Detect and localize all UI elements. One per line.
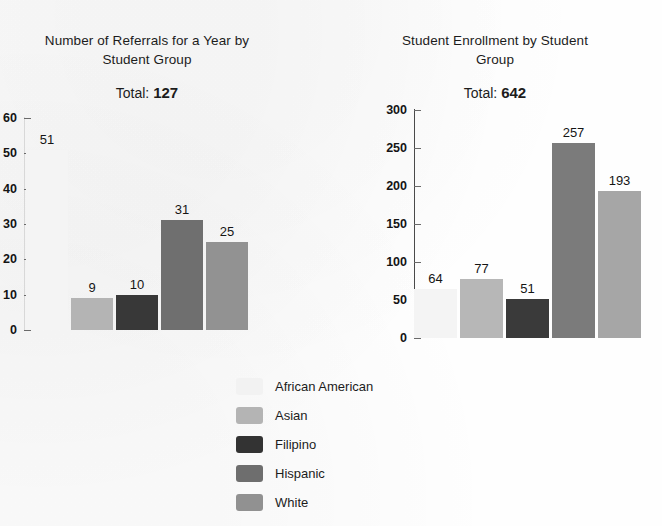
y-tick-label: 40 — [3, 182, 17, 196]
total-value: 642 — [501, 84, 526, 101]
bar-asian: 77 — [460, 279, 503, 338]
bar-fill — [161, 220, 203, 330]
y-tick-label: 60 — [3, 111, 17, 125]
y-tick-label: 30 — [3, 217, 17, 231]
legend-item: African American — [236, 372, 436, 401]
legend-item: Filipino — [236, 430, 436, 459]
bar-fill — [116, 295, 158, 330]
bar-fill — [598, 191, 641, 338]
bar-hispanic: 257 — [552, 143, 595, 338]
bar-value-label: 25 — [220, 224, 234, 239]
bar-value-label: 51 — [40, 132, 54, 147]
page-canvas: Number of Referrals for a Year by Studen… — [0, 0, 662, 526]
bar-african-american: 51 — [26, 150, 68, 330]
legend-swatch-hispanic — [236, 465, 263, 482]
total-value: 127 — [153, 84, 178, 101]
legend-item: Hispanic — [236, 459, 436, 488]
bar-value-label: 10 — [130, 277, 144, 292]
chart-enrollment-total: Total: 642 — [330, 84, 660, 101]
chart-enrollment: Student Enrollment by Student Group Tota… — [330, 0, 660, 350]
chart-referrals-title: Number of Referrals for a Year by Studen… — [0, 31, 294, 69]
legend-item: White — [236, 488, 436, 517]
bar-african-american: 64 — [414, 289, 457, 338]
bar-white: 193 — [598, 191, 641, 338]
y-tick-label: 300 — [386, 103, 407, 117]
chart-enrollment-plot-area: 050100150200250300 647751257193 — [414, 110, 636, 338]
y-tick — [24, 330, 31, 331]
bar-asian: 9 — [71, 298, 113, 330]
bar-value-label: 193 — [609, 173, 631, 188]
legend-label: White — [275, 495, 308, 510]
y-tick-label: 100 — [386, 255, 407, 269]
bar-fill — [552, 143, 595, 338]
legend-swatch-filipino — [236, 436, 263, 453]
bar-filipino: 10 — [116, 295, 158, 330]
bar-series: 647751257193 — [414, 110, 636, 338]
bar-fill — [71, 298, 113, 330]
bar-fill — [26, 150, 68, 330]
bar-value-label: 9 — [88, 280, 95, 295]
bar-fill — [206, 242, 248, 330]
legend-label: African American — [275, 379, 373, 394]
chart-referrals-plot-area: 0102030405060 519103125 — [24, 118, 248, 330]
legend-label: Hispanic — [275, 466, 325, 481]
bar-fill — [414, 289, 457, 338]
bar-value-label: 257 — [563, 125, 585, 140]
legend-item: Asian — [236, 401, 436, 430]
bar-hispanic: 31 — [161, 220, 203, 330]
bar-white: 25 — [206, 242, 248, 330]
total-label: Total: — [464, 85, 497, 101]
y-tick-label: 0 — [400, 331, 407, 345]
y-tick-label: 250 — [386, 141, 407, 155]
legend-swatch-asian — [236, 407, 263, 424]
y-tick-label: 0 — [10, 323, 17, 337]
legend-label: Filipino — [275, 437, 316, 452]
y-tick-label: 150 — [386, 217, 407, 231]
bar-value-label: 51 — [520, 281, 534, 296]
bar-value-label: 31 — [175, 202, 189, 217]
y-tick-label: 10 — [3, 288, 17, 302]
bar-filipino: 51 — [506, 299, 549, 338]
bar-series: 519103125 — [24, 118, 248, 330]
chart-legend: African AmericanAsianFilipinoHispanicWhi… — [236, 372, 436, 517]
legend-swatch-white — [236, 494, 263, 511]
bar-value-label: 77 — [474, 261, 488, 276]
legend-swatch-african-american — [236, 378, 263, 395]
chart-referrals: Number of Referrals for a Year by Studen… — [0, 0, 294, 350]
y-tick-label: 50 — [393, 293, 407, 307]
bar-fill — [460, 279, 503, 338]
y-tick-label: 20 — [3, 252, 17, 266]
y-tick-label: 200 — [386, 179, 407, 193]
chart-referrals-total: Total: 127 — [0, 84, 294, 101]
total-label: Total: — [116, 85, 149, 101]
bar-value-label: 64 — [428, 271, 442, 286]
legend-label: Asian — [275, 408, 308, 423]
y-tick — [414, 338, 421, 339]
y-tick-label: 50 — [3, 146, 17, 160]
chart-enrollment-title: Student Enrollment by Student Group — [330, 31, 660, 69]
bar-fill — [506, 299, 549, 338]
